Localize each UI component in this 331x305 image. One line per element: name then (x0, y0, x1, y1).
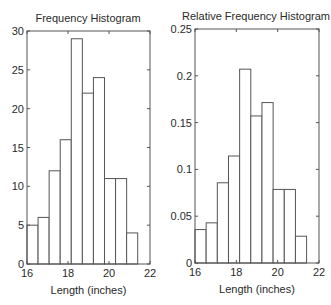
x-tick-label: 18 (62, 267, 74, 279)
x-tick-label: 20 (103, 267, 115, 279)
y-tick-label: 5 (18, 219, 24, 231)
histogram-bar (228, 156, 239, 263)
y-tick-label: 0.1 (177, 163, 192, 175)
x-tick-label: 22 (144, 267, 156, 279)
histogram-bar (93, 78, 104, 264)
frequency-histogram: Frequency Histogram05101520253016182022L… (12, 12, 156, 296)
histogram-bar (49, 171, 60, 264)
y-tick-label: 20 (12, 103, 24, 115)
x-tick-label: 22 (313, 266, 325, 278)
histogram-bar (273, 189, 284, 263)
x-tick-label: 20 (272, 266, 284, 278)
y-tick-label: 15 (12, 142, 24, 154)
histogram-bar (251, 116, 262, 263)
histogram-bar (60, 140, 71, 264)
x-axis-label: Length (inches) (219, 283, 295, 295)
histogram-bar (127, 233, 138, 264)
histogram-bar (284, 189, 295, 263)
histogram-bar (116, 179, 127, 264)
histogram-bar (71, 39, 82, 264)
x-tick-label: 18 (230, 266, 242, 278)
histogram-bar (27, 225, 38, 264)
histogram-bar (295, 236, 306, 263)
x-tick-label: 16 (21, 267, 33, 279)
histogram-bar (240, 69, 251, 263)
histogram-bar (104, 179, 115, 264)
histogram-bar (262, 103, 273, 263)
chart-title: Relative Frequency Histogram (182, 10, 330, 22)
x-axis-label: Length (inches) (51, 284, 127, 296)
y-tick-label: 0.2 (177, 70, 192, 82)
chart-title: Frequency Histogram (35, 12, 140, 24)
x-tick-label: 16 (189, 266, 201, 278)
histogram-bar (206, 223, 217, 263)
histogram-bar (217, 183, 228, 263)
y-tick-label: 0.15 (171, 117, 192, 129)
y-tick-label: 25 (12, 64, 24, 76)
y-tick-label: 0.05 (171, 210, 192, 222)
y-tick-label: 0.25 (171, 23, 192, 35)
histogram-figure: Frequency Histogram05101520253016182022L… (0, 0, 331, 305)
histogram-bar (82, 93, 93, 264)
histogram-bar (38, 217, 49, 264)
y-tick-label: 30 (12, 25, 24, 37)
y-tick-label: 10 (12, 180, 24, 192)
relative-frequency-histogram: Relative Frequency Histogram00.050.10.15… (171, 10, 330, 295)
histogram-bar (195, 230, 206, 263)
